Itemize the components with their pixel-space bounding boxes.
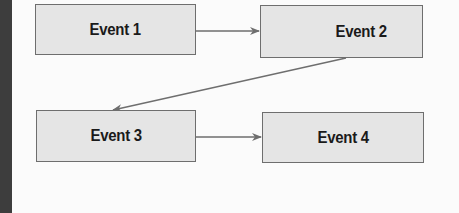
node-label: Event 3: [90, 126, 141, 146]
node-event-2: Event 2: [260, 5, 423, 58]
arrow-event2-to-event3: [113, 58, 346, 110]
node-event-3: Event 3: [36, 110, 196, 162]
node-event-4: Event 4: [262, 112, 424, 163]
node-label: Event 4: [317, 128, 368, 148]
node-event-1: Event 1: [35, 4, 196, 55]
node-label: Event 2: [336, 22, 387, 42]
node-label: Event 1: [90, 20, 141, 40]
